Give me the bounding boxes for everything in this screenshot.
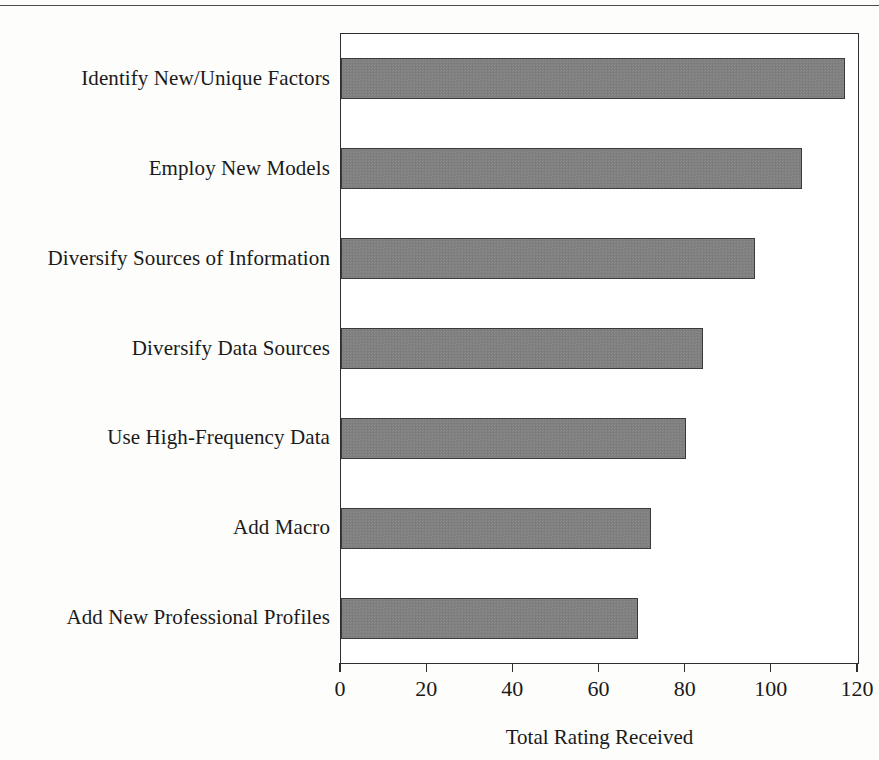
x-axis-tick-label: 100 xyxy=(754,676,787,702)
category-label: Add Macro xyxy=(0,515,330,539)
chart-page: Identify New/Unique FactorsEmploy New Mo… xyxy=(0,0,879,760)
x-axis-tick xyxy=(770,663,771,672)
bar xyxy=(341,238,755,279)
category-label: Diversify Sources of Information xyxy=(0,246,330,270)
plot-frame xyxy=(340,33,859,664)
x-axis-tick xyxy=(339,663,340,672)
x-axis-tick xyxy=(856,663,857,672)
bar xyxy=(341,508,651,549)
bar xyxy=(341,598,638,639)
x-axis-tick xyxy=(426,663,427,672)
x-axis-tick-label: 80 xyxy=(674,676,696,702)
x-axis-tick-label: 60 xyxy=(588,676,610,702)
bar xyxy=(341,418,686,459)
bar xyxy=(341,58,845,99)
x-axis-tick xyxy=(684,663,685,672)
bar xyxy=(341,148,802,189)
category-label: Diversify Data Sources xyxy=(0,336,330,360)
bar xyxy=(341,328,703,369)
x-axis-ticks xyxy=(340,663,859,673)
category-label: Employ New Models xyxy=(0,156,330,180)
x-axis-tick xyxy=(598,663,599,672)
category-label: Identify New/Unique Factors xyxy=(0,66,330,90)
x-axis-tick-label: 0 xyxy=(335,676,346,702)
bars-container xyxy=(341,34,858,663)
category-label: Use High-Frequency Data xyxy=(0,425,330,449)
x-axis-tick-labels: 020406080100120 xyxy=(340,676,859,706)
x-axis-title: Total Rating Received xyxy=(340,724,859,750)
category-axis-labels: Identify New/Unique FactorsEmploy New Mo… xyxy=(0,33,330,662)
page-top-rule xyxy=(0,5,879,6)
x-axis-tick-label: 120 xyxy=(841,676,874,702)
x-axis-tick xyxy=(512,663,513,672)
category-label: Add New Professional Profiles xyxy=(0,605,330,629)
x-axis-tick-label: 40 xyxy=(501,676,523,702)
x-axis-tick-label: 20 xyxy=(415,676,437,702)
